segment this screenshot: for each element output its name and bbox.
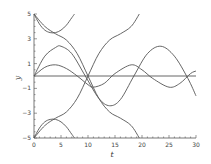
series-upper-arc — [34, 14, 75, 33]
x-axis-label: t — [110, 150, 114, 159]
y-tick-label: −3 — [22, 109, 31, 116]
x-tick-label: 5 — [59, 141, 63, 148]
x-tick-label: 0 — [32, 141, 36, 148]
series-lower-arc — [34, 119, 75, 138]
x-tick-label: 15 — [111, 141, 119, 148]
x-tick-label: 10 — [84, 141, 92, 148]
y-tick-label: 1 — [27, 60, 31, 67]
y-tick-label: −5 — [22, 134, 31, 141]
plot-area — [34, 14, 196, 138]
x-tick-label: 20 — [138, 141, 146, 148]
y-axis-label: y — [13, 75, 22, 81]
y-tick-label: 5 — [27, 10, 31, 17]
x-tick-label: 30 — [192, 141, 200, 148]
y-tick-label: −1 — [22, 84, 31, 91]
x-tick-label: 25 — [165, 141, 173, 148]
y-tick-label: 3 — [27, 35, 31, 42]
chart: 051015202530−5−3−1135 t y — [0, 0, 211, 164]
axes: 051015202530−5−3−1135 — [22, 10, 200, 148]
